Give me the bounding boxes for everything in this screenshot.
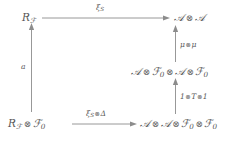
mu-symbol-b: μ (191, 40, 196, 49)
arrow-left-vertical (29, 23, 34, 112)
a-symbol: a (21, 62, 26, 71)
node-bottom-right-A2: 𝒜 (161, 117, 171, 129)
arrow-top-horizontal (42, 15, 170, 20)
arrow-right-upper-vertical (173, 25, 178, 62)
node-bottom-left: Rℱ⊗ℱ0 (8, 118, 46, 130)
node-bottom-right: 𝒜⊗𝒜⊗ℱ0⊗ℱ0 (140, 118, 217, 130)
tensor-icon: ⊗ (185, 67, 195, 77)
node-bottom-right-F2-subscript: 0 (213, 122, 218, 131)
node-top-left: Rℱ (22, 12, 36, 24)
tensor-icon: ⊗ (165, 67, 175, 77)
node-bottom-left-R: R (8, 117, 16, 129)
node-middle-right-A2: 𝒜 (175, 65, 185, 77)
one-symbol-b: 1 (203, 92, 208, 101)
node-middle-right: 𝒜⊗ℱ0⊗𝒜⊗ℱ0 (131, 66, 208, 78)
node-top-right-A2: 𝒜 (195, 11, 205, 23)
tensor-icon: ⊗ (194, 119, 204, 129)
node-bottom-left-F: ℱ (33, 117, 41, 129)
tensor-icon: ⊗ (22, 119, 32, 129)
arrow-label-bottom-horizontal: ξS⊗Δ (86, 110, 106, 119)
node-bottom-right-A1: 𝒜 (140, 117, 150, 129)
tensor-icon: ⊗ (141, 67, 151, 77)
node-bottom-right-F2: ℱ (204, 117, 212, 129)
xi-subscript: S (100, 6, 104, 12)
tensor-icon: ⊗ (150, 119, 160, 129)
node-top-left-R: R (22, 11, 30, 23)
tensor-icon: ⊗ (171, 119, 181, 129)
arrow-label-left-vertical: a (21, 63, 26, 71)
node-bottom-left-F-subscript: 0 (41, 122, 46, 131)
node-middle-right-F2: ℱ (195, 65, 203, 77)
node-middle-right-F1: ℱ (152, 65, 160, 77)
arrow-bottom-horizontal (72, 121, 137, 126)
arrow-label-right-upper: μ⊗μ (180, 41, 196, 49)
arrow-label-top-horizontal: ξS (96, 4, 104, 13)
arrow-label-right-lower: 1⊗T⊗1 (180, 93, 208, 101)
node-middle-right-F2-subscript: 0 (204, 70, 209, 79)
commutative-diagram: Rℱ 𝒜⊗𝒜 𝒜⊗ℱ0⊗𝒜⊗ℱ0 Rℱ⊗ℱ0 𝒜⊗𝒜⊗ℱ0⊗ℱ0 ξS a ξS… (0, 0, 250, 141)
node-middle-right-A1: 𝒜 (131, 65, 141, 77)
delta-symbol: Δ (100, 109, 105, 118)
node-middle-right-F1-subscript: 0 (160, 70, 165, 79)
node-top-left-subscript: ℱ (30, 16, 36, 25)
node-top-right: 𝒜⊗𝒜 (174, 12, 205, 23)
arrow-right-lower-vertical (173, 78, 178, 114)
tensor-icon: ⊗ (184, 13, 194, 23)
node-top-right-A1: 𝒜 (174, 11, 184, 23)
